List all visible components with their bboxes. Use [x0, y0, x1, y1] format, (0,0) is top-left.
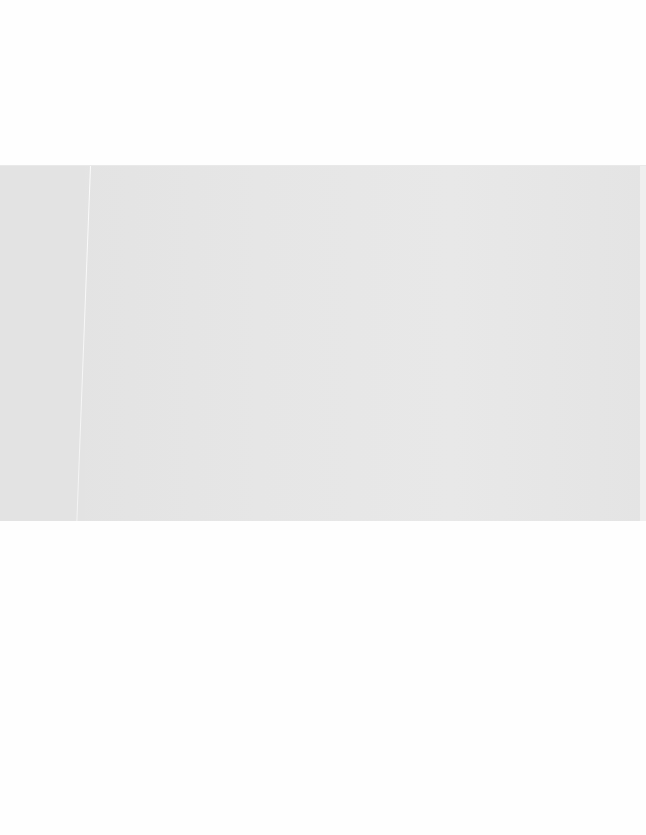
image-placeholder-left-panel [0, 166, 84, 521]
blank-page [0, 0, 646, 835]
image-placeholder-right-edge [640, 166, 646, 521]
image-placeholder [0, 165, 646, 521]
